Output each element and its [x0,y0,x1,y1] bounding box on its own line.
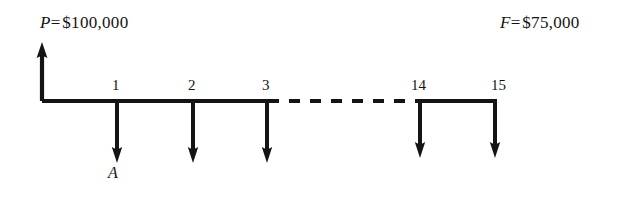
annuity-label: A [108,165,118,181]
period-label-2: 2 [188,78,196,93]
period-label-15: 15 [491,78,506,93]
present-worth-arrow [37,42,48,101]
future-worth-label: F= $75,000 [500,14,580,31]
future-worth-value: $75,000 [522,13,579,32]
future-worth-symbol: F [500,13,511,32]
annuity-arrow-14 [415,99,425,158]
annuity-arrow-15 [490,99,500,158]
cash-flow-diagram: P= $100,000 F= $75,000 1 2 3 14 15 A [0,0,624,199]
annuity-arrow-3 [262,99,272,163]
period-label-3: 3 [262,78,270,93]
annuity-arrow-1 [112,99,122,163]
future-worth-equals: = [511,13,521,32]
present-worth-label: P= $100,000 [40,14,128,31]
period-label-1: 1 [112,78,120,93]
annuity-arrow-2 [188,99,198,163]
period-label-14: 14 [411,78,426,93]
present-worth-value: $100,000 [62,13,128,32]
present-worth-symbol: P [40,13,51,32]
present-worth-equals: = [51,13,61,32]
